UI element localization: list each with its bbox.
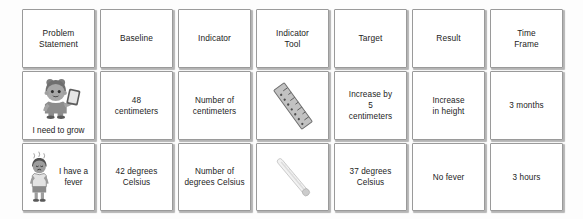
header-label-time-frame: Time Frame [514,28,539,50]
header-label-baseline: Baseline [120,33,153,44]
header-label-indicator: Indicator [198,33,231,44]
header-label-result: Result [436,33,460,44]
cell-baseline-fever[interactable]: 42 degrees Celsius [100,143,173,211]
ruler-icon [257,78,328,134]
table-row[interactable]: I have a fever [22,143,95,211]
table-row[interactable]: I need to grow [22,71,95,140]
cell-target-grow[interactable]: Increase by 5 centimeters [334,71,407,140]
cell-result-grow[interactable]: Increase in height [412,71,485,140]
header-cell-indicator-tool[interactable]: Indicator Tool [256,9,329,68]
header-label-indicator-tool: Indicator Tool [276,28,309,50]
sick-child-illustration [26,151,54,203]
header-cell-target[interactable]: Target [334,9,407,68]
results-matrix-table: Problem Statement Baseline Indicator Ind… [22,9,563,211]
cell-target-fever[interactable]: 37 degrees Celsius [334,143,407,211]
cell-time-frame-grow[interactable]: 3 months [490,71,563,140]
child-with-phone-illustration [23,72,94,125]
indicator-value-fever: Number of degrees Celsius [184,166,244,188]
worksheet-canvas: Problem Statement Baseline Indicator Ind… [0,0,583,219]
header-label-problem-statement: Problem Statement [39,28,78,50]
baseline-value-fever: 42 degrees Celsius [116,166,158,188]
header-cell-problem-statement[interactable]: Problem Statement [22,9,95,68]
header-cell-time-frame[interactable]: Time Frame [490,9,563,68]
problem-statement-caption-fever: I have a fever [56,166,91,188]
cell-indicator-grow[interactable]: Number of centimeters [178,71,251,140]
indicator-value-grow: Number of centimeters [193,95,236,117]
header-cell-result[interactable]: Result [412,9,485,68]
cell-indicator-tool-fever[interactable] [256,143,329,211]
result-value-fever: No fever [433,172,465,183]
baseline-value-grow: 48 centimeters [115,95,158,117]
header-cell-baseline[interactable]: Baseline [100,9,173,68]
time-frame-value-fever: 3 hours [512,172,540,183]
thermometer-icon [257,147,328,207]
result-value-grow: Increase in height [432,95,464,117]
target-value-grow: Increase by 5 centimeters [349,89,392,122]
header-label-target: Target [359,33,383,44]
time-frame-value-grow: 3 months [509,100,543,111]
cell-baseline-grow[interactable]: 48 centimeters [100,71,173,140]
cell-time-frame-fever[interactable]: 3 hours [490,143,563,211]
header-cell-indicator[interactable]: Indicator [178,9,251,68]
cell-result-fever[interactable]: No fever [412,143,485,211]
cell-indicator-tool-grow[interactable] [256,71,329,140]
cell-indicator-fever[interactable]: Number of degrees Celsius [178,143,251,211]
problem-statement-caption-grow: I need to grow [23,125,94,139]
target-value-fever: 37 degrees Celsius [350,166,392,188]
